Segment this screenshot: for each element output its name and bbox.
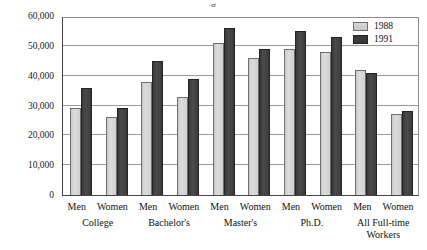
bar: [355, 70, 366, 195]
bar: [152, 61, 163, 195]
x-axis-group: MenWomenMaster's: [205, 196, 276, 229]
legend-item-label: 1988: [374, 21, 393, 32]
bar: [224, 28, 235, 195]
y-axis-tick-label: 30,000: [0, 102, 58, 112]
bar: [141, 82, 152, 195]
x-axis-group: MenWomenCollege: [62, 196, 133, 229]
bar: [177, 97, 188, 195]
x-axis-group-label: College: [62, 213, 133, 229]
bar: [248, 58, 259, 195]
legend-swatch-1988-icon: [353, 22, 368, 31]
bar: [188, 79, 199, 195]
y-axis-tick-label: 20,000: [0, 131, 58, 141]
bar: [213, 43, 224, 195]
x-axis-subgroup-label: Women: [168, 201, 199, 213]
x-axis-subgroup-label: Men: [353, 201, 371, 213]
x-axis-group: MenWomenPh.D.: [276, 196, 347, 229]
y-axis-tick-label: 60,000: [0, 12, 58, 22]
y-axis-tick-label: 10,000: [0, 161, 58, 171]
x-axis-subgroup-label: Men: [139, 201, 157, 213]
bar: [259, 49, 270, 195]
legend-item-label: 1991: [374, 34, 393, 45]
x-axis-subgroup-label: Women: [97, 201, 128, 213]
legend-item[interactable]: 1991: [353, 34, 417, 45]
legend-item[interactable]: 1988: [353, 21, 417, 32]
bar: [70, 108, 81, 195]
x-axis-subgroup-label: Men: [210, 201, 228, 213]
x-axis-subgroup-label: Men: [282, 201, 300, 213]
bar: [106, 117, 117, 195]
x-axis-subgroup-labels: MenWomen: [276, 196, 347, 213]
bar: [284, 49, 295, 195]
x-axis-subgroup-label: Women: [240, 201, 271, 213]
bar: [320, 52, 331, 195]
x-axis-group: MenWomenBachelor's: [133, 196, 204, 229]
bar: [295, 31, 306, 195]
x-axis-subgroup-label: Men: [68, 201, 86, 213]
x-axis-group-label: Master's: [205, 213, 276, 229]
x-axis: MenWomenCollegeMenWomenBachelor'sMenWome…: [0, 196, 427, 250]
bar: [81, 88, 92, 195]
y-axis-tick-label: 40,000: [0, 72, 58, 82]
bar-chart: 60,00050,00040,00030,00020,00010,0000 19…: [0, 0, 427, 250]
legend-swatch-1991-icon: [353, 35, 368, 44]
bar: [402, 111, 413, 195]
x-axis-group: MenWomenAll Full-time Workers: [348, 196, 419, 241]
x-axis-group-label: Bachelor's: [133, 213, 204, 229]
x-axis-subgroup-label: Women: [383, 201, 414, 213]
x-axis-group-label: Ph.D.: [276, 213, 347, 229]
legend: 19881991: [353, 21, 417, 47]
bar: [117, 108, 128, 195]
bar: [366, 73, 377, 195]
bar: [391, 114, 402, 195]
x-axis-subgroup-labels: MenWomen: [133, 196, 204, 213]
x-axis-subgroup-labels: MenWomen: [62, 196, 133, 213]
x-axis-subgroup-label: Women: [311, 201, 342, 213]
x-axis-subgroup-labels: MenWomen: [348, 196, 419, 213]
x-axis-subgroup-labels: MenWomen: [205, 196, 276, 213]
y-axis-tick-label: 50,000: [0, 42, 58, 52]
bar: [331, 37, 342, 195]
x-axis-group-label: All Full-time Workers: [348, 213, 419, 241]
